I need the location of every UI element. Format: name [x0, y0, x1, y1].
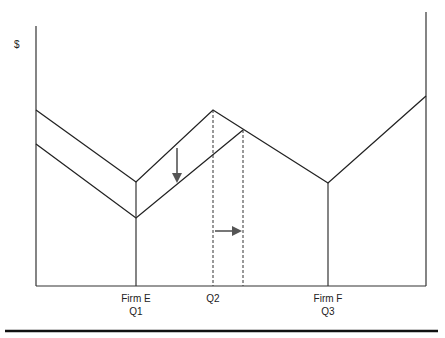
firm-e-quantity: Q1: [106, 305, 166, 318]
firm-f-quantity: Q3: [298, 305, 358, 318]
x-label-firm-f: Firm F Q3: [298, 292, 358, 318]
y-axis-label: $: [14, 38, 20, 51]
q2-label: Q2: [183, 292, 243, 305]
right-arrow-icon: [215, 226, 242, 236]
diagram-canvas: [0, 0, 445, 338]
lower-cost-curve: [36, 130, 243, 218]
x-label-q2: Q2: [183, 292, 243, 305]
firm-e-name: Firm E: [106, 292, 166, 305]
firm-f-name: Firm F: [298, 292, 358, 305]
down-arrow-icon: [172, 148, 182, 183]
x-label-firm-e: Firm E Q1: [106, 292, 166, 318]
